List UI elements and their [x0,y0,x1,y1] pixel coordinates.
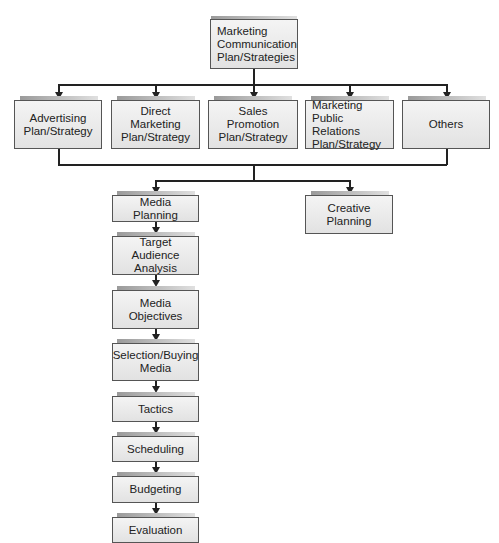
node-public-relations-plan: Marketing Public Relations Plan/Strategy [305,100,394,149]
node-label: Direct Marketing Plan/Strategy [115,105,196,144]
node-label: Evaluation [129,524,183,537]
node-marketing-communication: Marketing Communication Plan/Strategies [210,19,298,69]
connector [253,69,255,84]
node-scheduling: Scheduling [112,436,199,462]
connector [253,164,255,180]
node-budgeting: Budgeting [112,476,199,503]
node-sales-promotion-plan: Sales Promotion Plan/Strategy [208,100,298,149]
node-direct-marketing-plan: Direct Marketing Plan/Strategy [111,100,200,149]
node-label: Scheduling [127,443,184,456]
node-creative-planning: Creative Planning [305,195,393,234]
connector [58,149,60,165]
node-label: Media Planning [116,196,195,222]
node-evaluation: Evaluation [112,517,199,543]
node-label: Media Objectives [129,297,183,323]
node-label: Creative Planning [327,202,372,228]
node-label: Budgeting [130,483,182,496]
node-advertising-plan: Advertising Plan/Strategy [14,100,102,149]
node-target-audience-analysis: Target Audience Analysis [112,236,199,275]
node-label: Sales Promotion Plan/Strategy [212,105,294,144]
node-tactics: Tactics [112,396,199,422]
node-others-plan: Others [402,100,490,149]
node-label: Advertising Plan/Strategy [23,112,92,138]
node-label: Tactics [138,403,173,416]
connector [446,149,448,165]
node-label: Selection/Buying Media [113,349,199,375]
node-media-objectives: Media Objectives [112,290,199,329]
connector-split [155,180,351,182]
node-label: Others [429,118,464,131]
node-label: Target Audience Analysis [116,236,195,275]
node-label: Marketing Public Relations Plan/Strategy [312,99,390,151]
node-media-planning: Media Planning [112,195,199,222]
node-label: Marketing Communication Plan/Strategies [217,25,297,64]
node-selection-buying-media: Selection/Buying Media [112,343,199,381]
